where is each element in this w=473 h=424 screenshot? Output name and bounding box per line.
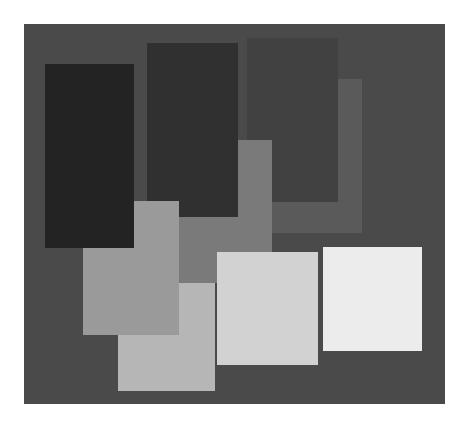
rect-a-darkest <box>45 64 134 248</box>
rect-g-lighter-gray <box>217 252 318 365</box>
rect-h-near-white <box>323 247 422 351</box>
rect-b-dark <box>147 43 238 217</box>
